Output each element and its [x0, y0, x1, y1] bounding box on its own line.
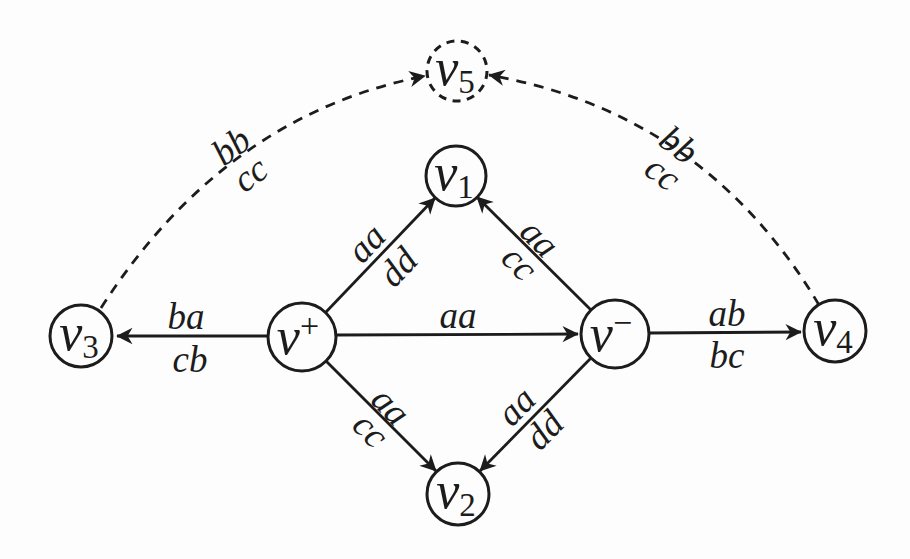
- node-v3-subscript: 3: [82, 329, 99, 365]
- node-v-minus-base: v: [590, 305, 614, 362]
- node-v2-base: v: [436, 462, 460, 519]
- edge-vminus-v4: ab bc: [649, 293, 801, 376]
- node-v-plus-superscript: +: [300, 307, 319, 344]
- node-v-minus-superscript: −: [613, 304, 632, 341]
- edge-vplus-v2: aa cc: [326, 361, 436, 471]
- node-v3: v3: [50, 304, 112, 367]
- node-v1: v1: [426, 144, 486, 206]
- graph-figure: aa dd aa cc ba cb aa ab bc aa cc aa dd b…: [0, 0, 910, 559]
- edge-vminus-v1: aa cc: [477, 197, 591, 310]
- node-v5-base: v: [435, 39, 459, 96]
- edge-vplus-v3: ba cb: [117, 296, 268, 380]
- edge-vplus-v1: aa dd: [326, 198, 435, 312]
- node-v3-base: v: [59, 304, 83, 361]
- edge-vplus-v3-label-bottom: cb: [173, 339, 208, 380]
- node-v2-subscript: 2: [459, 487, 476, 523]
- node-v-minus: v−: [581, 300, 649, 368]
- node-v5-subscript: 5: [458, 64, 475, 100]
- edge-vminus-v4-label-bottom: bc: [710, 335, 746, 376]
- edge-vminus-v4-label-top: ab: [709, 293, 746, 334]
- node-v1-base: v: [434, 144, 458, 201]
- node-v4-base: v: [813, 299, 837, 356]
- node-v4: v4: [804, 299, 866, 362]
- node-v-plus: v+: [268, 303, 336, 371]
- edge-vplus-vminus-label-top: aa: [440, 295, 477, 336]
- node-v-plus-base: v: [277, 308, 301, 365]
- edge-vplus-v3-label-top: ba: [168, 296, 205, 337]
- edge-vplus-vminus: aa: [336, 295, 578, 336]
- node-v5: v5: [427, 39, 487, 101]
- edge-vminus-v2: aa dd: [480, 358, 591, 471]
- edge-v4-v5: bb cc: [489, 75, 819, 305]
- node-v1-subscript: 1: [457, 169, 474, 205]
- graph-diagram-svg: aa dd aa cc ba cb aa ab bc aa cc aa dd b…: [0, 0, 910, 559]
- node-v2: v2: [427, 462, 489, 525]
- node-v4-subscript: 4: [836, 324, 853, 360]
